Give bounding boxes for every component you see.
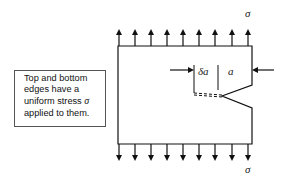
- note-line-3-text: uniform stress: [24, 96, 84, 106]
- note-line-1: Top and bottom: [24, 73, 105, 84]
- specimen-outline: [118, 46, 252, 144]
- note-line-4: applied to them.: [24, 108, 105, 119]
- label-delta-a: δa: [198, 65, 209, 77]
- note-sigma-symbol: σ: [84, 95, 89, 106]
- top-stress-arrows: [119, 32, 248, 46]
- label-a: a: [228, 65, 234, 77]
- bottom-stress-arrows: [119, 144, 248, 158]
- crack-extension-dashed: [194, 93, 222, 97]
- label-sigma-bottom: σ: [245, 163, 251, 175]
- note-line-3: uniform stress σ: [24, 95, 105, 107]
- note-line-2: edges have a: [24, 84, 105, 95]
- label-sigma-top: σ: [245, 7, 251, 19]
- explanation-note: Top and bottom edges have a uniform stre…: [14, 70, 106, 127]
